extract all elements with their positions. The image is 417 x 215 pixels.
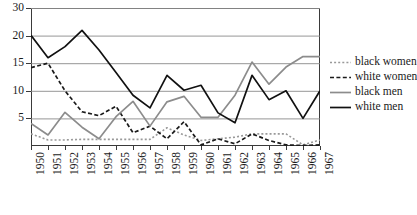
x-tick-label: 1951 [52,152,64,175]
x-tick-label: 1956 [137,152,149,175]
x-tick-mark [235,146,236,150]
x-tick-label: 1963 [256,152,268,175]
legend-item: black women [330,55,417,69]
x-tick-label: 1958 [171,152,183,175]
line-chart: 510152030 195019511952195319541955195619… [0,0,417,215]
y-tick-label: 15 [13,57,25,69]
x-tick-label: 1954 [103,152,115,175]
series-line-black-men [31,57,320,139]
x-tick-mark [184,146,185,150]
legend-swatch-black-women [330,58,351,67]
y-tick-label: 10 [13,85,25,97]
x-tick-label: 1960 [205,152,217,175]
series-line-black-women [31,128,320,145]
legend-swatch-black-men [330,88,351,97]
y-axis: 510152030 [0,0,31,154]
x-tick-mark [116,146,117,150]
y-tick-label: 20 [13,30,25,42]
legend-swatch-white-men [330,103,351,112]
legend-item: white men [330,100,417,114]
x-tick-label: 1964 [273,152,285,175]
x-tick-mark [201,146,202,150]
x-tick-mark [82,146,83,150]
x-tick-label: 1957 [154,152,166,175]
legend-label: black women [355,56,417,68]
x-tick-mark [303,146,304,150]
x-tick-label: 1955 [120,152,132,175]
plot-area [31,8,320,146]
x-tick-mark [133,146,134,150]
x-tick-mark [167,146,168,150]
x-tick-mark [252,146,253,150]
x-tick-label: 1965 [290,152,302,175]
x-tick-label: 1950 [35,152,47,175]
x-axis: 1950195119521953195419551956195719581959… [31,146,320,215]
x-tick-mark [48,146,49,150]
x-tick-mark [269,146,270,150]
x-tick-mark [99,146,100,150]
x-tick-label: 1966 [307,152,319,175]
legend-label: black men [355,86,403,98]
series-lines [31,30,320,145]
legend-label: white women [355,71,417,83]
x-tick-label: 1967 [324,152,336,175]
x-tick-label: 1953 [86,152,98,175]
x-tick-mark [218,146,219,150]
legend: black womenwhite womenblack menwhite men [330,55,417,115]
x-tick-mark [320,146,321,150]
legend-item: black men [330,85,417,99]
x-tick-label: 1962 [239,152,251,175]
x-tick-label: 1959 [188,152,200,175]
x-tick-mark [65,146,66,150]
legend-swatch-white-women [330,73,351,82]
x-tick-label: 1961 [222,152,234,175]
legend-item: white women [330,70,417,84]
legend-label: white men [355,101,403,113]
x-tick-mark [286,146,287,150]
x-tick-mark [31,146,32,150]
y-tick-label: 30 [13,2,25,14]
x-tick-mark [150,146,151,150]
y-tick-label: 5 [18,113,24,125]
x-tick-label: 1952 [69,152,81,175]
